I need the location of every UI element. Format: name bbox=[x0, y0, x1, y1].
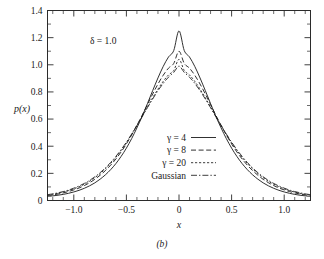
legend-label-1: γ = 8 bbox=[166, 145, 186, 155]
figure-panel: −1.0−0.500.51.000.20.40.60.81.01.21.4xp(… bbox=[0, 0, 324, 259]
y-tick-label: 0.8 bbox=[31, 87, 43, 97]
y-tick-label: 1.4 bbox=[31, 6, 43, 16]
y-tick-label: 0.2 bbox=[31, 169, 43, 179]
delta-annotation-text: δ = 1.0 bbox=[90, 36, 117, 46]
labels-layer: −1.0−0.500.51.000.20.40.60.81.01.21.4xp(… bbox=[13, 6, 290, 250]
x-tick-label: 1.0 bbox=[278, 205, 290, 215]
figure-caption-text: (b) bbox=[156, 239, 167, 250]
y-tick-label: 1.2 bbox=[31, 33, 43, 43]
y-tick-label: 0.4 bbox=[31, 142, 43, 152]
y-tick-label: 0 bbox=[38, 196, 43, 206]
x-axis-title: x bbox=[176, 219, 182, 230]
x-tick-label: −0.5 bbox=[118, 205, 135, 215]
legend-label-3: Gaussian bbox=[151, 171, 186, 181]
x-tick-label: −1.0 bbox=[65, 205, 82, 215]
y-tick-label: 0.6 bbox=[31, 114, 43, 124]
legend-label-0: γ = 4 bbox=[166, 133, 186, 143]
x-tick-label: 0 bbox=[177, 205, 182, 215]
chart-canvas: −1.0−0.500.51.000.20.40.60.81.01.21.4xp(… bbox=[0, 0, 324, 259]
y-tick-label: 1.0 bbox=[31, 60, 43, 70]
y-axis-title: p(x) bbox=[13, 103, 31, 115]
legend-label-2: γ = 20 bbox=[161, 158, 186, 168]
x-tick-label: 0.5 bbox=[226, 205, 238, 215]
